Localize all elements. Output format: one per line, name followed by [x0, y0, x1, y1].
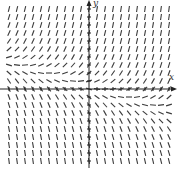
slope-segment	[137, 14, 138, 20]
slope-segment	[22, 55, 27, 58]
slope-segment	[64, 118, 66, 124]
slope-segment	[15, 47, 19, 51]
slope-segment	[152, 158, 153, 164]
slope-segment	[56, 30, 58, 36]
slope-segment	[7, 71, 11, 75]
slope-segment	[96, 30, 97, 36]
slope-segment	[72, 14, 73, 20]
slope-segment	[119, 79, 123, 83]
slope-segment	[57, 158, 58, 164]
slope-segment	[24, 38, 27, 43]
slope-segment	[167, 119, 171, 123]
slope-segment	[152, 62, 154, 68]
slope-segment	[161, 6, 162, 12]
slope-segment	[48, 102, 50, 108]
slope-segment	[73, 158, 74, 164]
slope-segment	[136, 38, 137, 44]
slope-segment	[151, 119, 155, 124]
slope-segment	[112, 14, 113, 20]
slope-segment	[104, 142, 105, 148]
slope-segment	[72, 46, 74, 52]
slope-segment	[25, 158, 26, 164]
slope-segment	[64, 126, 66, 132]
slope-segment	[24, 134, 25, 140]
slope-segment	[30, 64, 36, 65]
slope-segment	[137, 6, 138, 12]
slope-segment	[9, 150, 10, 156]
slope-segment	[80, 142, 81, 148]
slope-segment	[24, 94, 26, 100]
slope-segment	[96, 38, 98, 44]
slope-segment	[96, 118, 98, 124]
slope-segment	[96, 158, 97, 164]
slope-segment	[56, 126, 57, 132]
slope-segment	[15, 38, 18, 43]
slope-segment	[96, 46, 98, 52]
slope-segment	[121, 6, 122, 12]
slope-segment	[55, 55, 59, 60]
slope-segment	[79, 102, 82, 107]
slope-segment	[16, 14, 18, 20]
slope-segment	[48, 126, 49, 132]
slope-segment	[39, 46, 42, 51]
slope-segment	[49, 150, 50, 156]
slope-segment	[168, 150, 170, 156]
slope-segment	[152, 150, 154, 156]
slope-segment	[72, 22, 73, 28]
slope-segment	[134, 104, 140, 106]
slope-segment	[144, 126, 147, 131]
slope-segment	[96, 14, 97, 20]
slope-segment	[120, 118, 123, 123]
slope-segment	[40, 14, 41, 20]
slope-segment	[127, 111, 131, 116]
slope-segment	[25, 142, 26, 148]
slope-segment	[46, 63, 51, 66]
slope-segment	[24, 118, 25, 124]
slope-segment	[95, 62, 98, 67]
slope-segment	[167, 95, 171, 99]
slope-segment	[120, 142, 122, 148]
slope-segment	[144, 158, 145, 164]
slope-segment	[127, 79, 131, 84]
slope-segment	[32, 6, 33, 12]
slope-segment	[111, 103, 115, 107]
y-axis-arrow-icon	[87, 0, 92, 6]
slope-segment	[144, 150, 146, 156]
x-axis-label: x	[169, 72, 174, 82]
slope-segment	[113, 6, 114, 12]
slope-segment	[150, 96, 155, 99]
slope-segment	[144, 38, 145, 44]
slope-segment	[111, 110, 114, 115]
slope-segment	[152, 134, 154, 140]
slope-segment	[72, 110, 74, 116]
slope-segment	[8, 30, 11, 35]
slope-segment	[136, 134, 138, 140]
slope-segment	[112, 38, 114, 44]
slope-segment	[128, 62, 130, 68]
slope-segment	[168, 142, 170, 148]
slope-segment	[80, 134, 81, 140]
slope-segment	[144, 46, 145, 52]
slope-segment	[169, 22, 170, 28]
slope-segment	[32, 134, 33, 140]
slope-segment	[40, 30, 42, 36]
slope-segment	[72, 30, 74, 36]
slope-segment	[56, 110, 58, 116]
slope-segment	[96, 54, 98, 59]
slope-segment	[104, 118, 106, 124]
slope-segment	[48, 134, 49, 140]
slope-segment	[72, 142, 73, 148]
slope-segment	[102, 96, 107, 99]
slope-segment	[16, 6, 17, 12]
slope-segment	[80, 110, 82, 115]
slope-segment	[33, 158, 34, 164]
slope-segment	[136, 150, 137, 156]
slope-segment	[14, 56, 19, 59]
slope-segment	[40, 142, 41, 148]
slope-segment	[144, 62, 146, 68]
slope-segment	[120, 62, 122, 67]
slope-segment	[161, 22, 162, 28]
slope-segment	[120, 158, 121, 164]
slope-segment	[144, 30, 145, 36]
slope-segment	[32, 142, 33, 148]
